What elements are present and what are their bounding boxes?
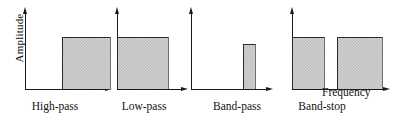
- panel-band-stop: Frequency Band-stop: [0, 0, 395, 123]
- passband-bar-lower: [292, 37, 325, 89]
- x-axis-arrow-icon: [383, 87, 390, 91]
- filter-response-figure: Amplitude High-pass Low-pass Band-pass F…: [0, 0, 395, 123]
- x-axis-label: Frequency: [322, 86, 371, 98]
- y-axis-arrow-icon: [290, 7, 294, 14]
- passband-bar-upper: [337, 37, 383, 89]
- panel-caption-band-stop: Band-stop: [285, 100, 359, 112]
